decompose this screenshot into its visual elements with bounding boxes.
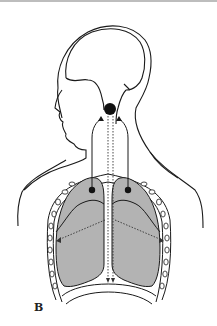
arrowhead-right-up bbox=[116, 116, 122, 121]
arrowhead-left-up bbox=[98, 116, 104, 121]
arrowhead-down-1 bbox=[106, 278, 110, 283]
anatomy-diagram bbox=[0, 0, 217, 326]
head-outline bbox=[24, 26, 178, 190]
shoulders bbox=[18, 152, 203, 228]
brainstem-node bbox=[104, 103, 116, 115]
panel-label: B bbox=[34, 301, 43, 314]
arrowhead-down-2 bbox=[111, 278, 115, 283]
